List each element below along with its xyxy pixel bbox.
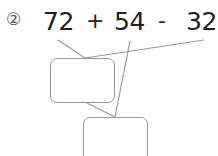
connector-term3-to-box1 <box>85 40 204 58</box>
first-result-box[interactable] <box>50 58 115 103</box>
final-result-box[interactable] <box>83 117 148 156</box>
connector-term1-to-box1 <box>58 40 85 58</box>
connector-box1-to-box2 <box>85 102 115 117</box>
